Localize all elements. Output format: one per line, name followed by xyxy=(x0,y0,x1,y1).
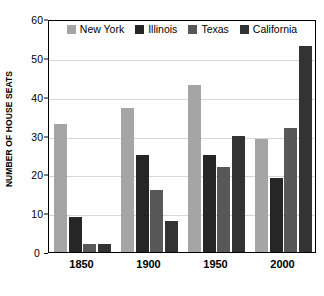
bar[interactable] xyxy=(136,155,149,252)
y-axis-tick-label: 60 xyxy=(31,14,43,26)
legend-item[interactable]: California xyxy=(240,23,297,35)
bars-layer xyxy=(49,21,315,252)
legend-label: Illinois xyxy=(148,23,177,35)
legend-item[interactable]: Texas xyxy=(188,23,228,35)
y-axis-title: NUMBER OF HOUSE SEATS xyxy=(0,0,18,258)
y-axis-tick-label: 20 xyxy=(31,169,43,181)
legend-item[interactable]: New York xyxy=(67,23,124,35)
legend-swatch-icon xyxy=(240,25,249,34)
bar[interactable] xyxy=(69,217,82,252)
y-axis-tick-labels: 102030405060 xyxy=(18,0,48,258)
y-axis-tick-label: 10 xyxy=(31,208,43,220)
bar[interactable] xyxy=(165,221,178,252)
x-axis-tick-label: 1950 xyxy=(203,258,227,270)
legend-swatch-icon xyxy=(188,25,197,34)
bar[interactable] xyxy=(299,46,312,252)
bar[interactable] xyxy=(270,178,283,252)
x-axis-tick-label: 1900 xyxy=(136,258,160,270)
legend-swatch-icon xyxy=(67,25,76,34)
chart-legend: New YorkIllinoisTexasCalifornia xyxy=(49,23,315,35)
legend-item[interactable]: Illinois xyxy=(135,23,177,35)
bar[interactable] xyxy=(83,244,96,252)
legend-swatch-icon xyxy=(135,25,144,34)
legend-label: New York xyxy=(80,23,124,35)
bar[interactable] xyxy=(121,108,134,252)
bar[interactable] xyxy=(54,124,67,252)
y-axis-tick-label: 30 xyxy=(31,131,43,143)
y-axis-tick-label: 40 xyxy=(31,92,43,104)
bar[interactable] xyxy=(150,190,163,252)
x-axis-tick-labels: 1850190019502000 xyxy=(48,255,316,277)
x-axis-tick-label: 1850 xyxy=(69,258,93,270)
bar[interactable] xyxy=(203,155,216,252)
x-axis-tick-label: 2000 xyxy=(270,258,294,270)
y-axis-zero-label: 0 xyxy=(34,247,40,259)
bar[interactable] xyxy=(232,136,245,253)
y-axis-zero-tickmark xyxy=(44,253,48,254)
legend-label: California xyxy=(253,23,297,35)
bar-chart: NUMBER OF HOUSE SEATS 102030405060 0 New… xyxy=(0,0,324,296)
bar[interactable] xyxy=(98,244,111,252)
bar[interactable] xyxy=(217,167,230,252)
bar[interactable] xyxy=(284,128,297,252)
plot-area: New YorkIllinoisTexasCalifornia xyxy=(48,20,316,253)
y-axis-title-text: NUMBER OF HOUSE SEATS xyxy=(4,71,14,187)
y-axis-tick-label: 50 xyxy=(31,53,43,65)
bar[interactable] xyxy=(188,85,201,252)
bar[interactable] xyxy=(255,139,268,252)
legend-label: Texas xyxy=(201,23,228,35)
